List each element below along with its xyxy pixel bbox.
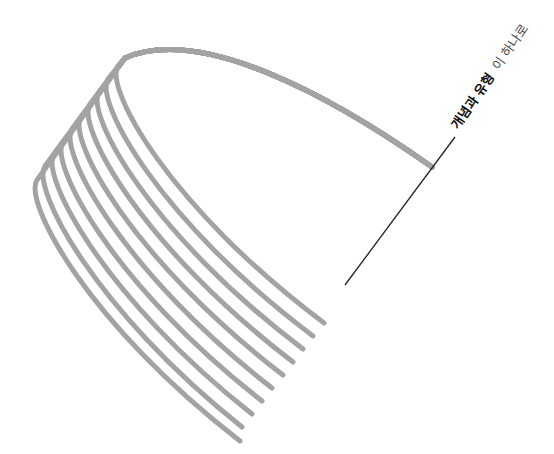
fan-curve-3 [97,50,432,349]
fan-curve-2 [106,50,432,336]
fan-diagram: 개념과 유형 이 하나로 [0,0,554,454]
label-bold-part: 개념과 유형 [448,70,497,131]
leader-line [345,137,455,285]
diagram-label: 개념과 유형 이 하나로 [448,22,531,132]
label-light-part: 이 하나로 [489,22,531,73]
fan-curve-1 [116,50,432,323]
fan-curves-group [35,50,432,441]
